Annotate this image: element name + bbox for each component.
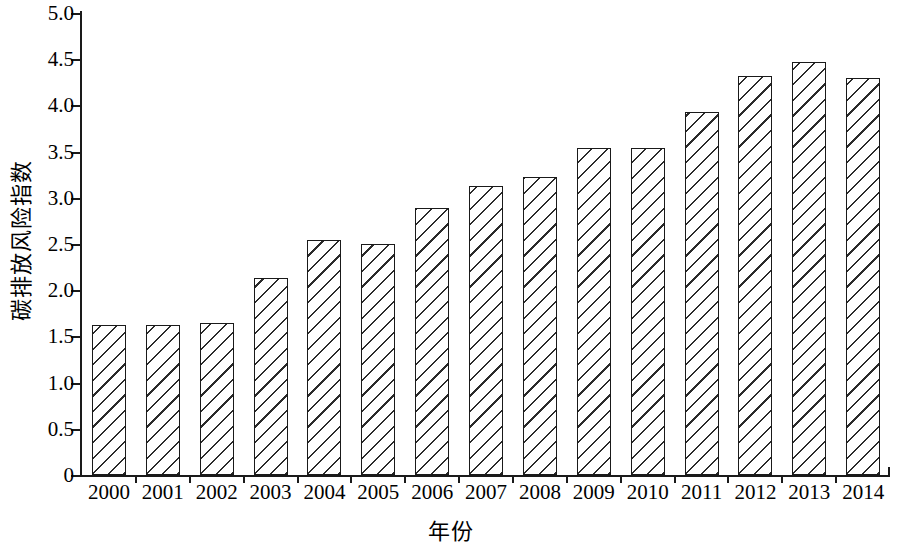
x-axis-end-tick [888,467,890,477]
bar [92,325,126,475]
x-tick-label: 2002 [187,482,247,503]
x-axis-label-text: 年份 [428,519,474,544]
bar [792,62,826,475]
x-tick-label: 2009 [564,482,624,503]
y-tick-label: 3.0 [48,187,74,208]
x-tick-label: 2005 [348,482,408,503]
plot-area: 00.51.01.52.02.53.03.54.04.55.0 [80,13,888,475]
bar [307,240,341,475]
bar [738,76,772,475]
bar [361,244,395,475]
bar [846,78,880,475]
x-axis-line [80,475,890,477]
bar [254,278,288,475]
x-tick-label: 2003 [241,482,301,503]
x-tick-label: 2008 [510,482,570,503]
y-tick-label: 1.5 [48,326,74,347]
x-tick-label: 2011 [672,482,732,503]
x-tick-label: 2004 [294,482,354,503]
y-tick-label: 0 [64,465,75,486]
x-tick-label: 2013 [779,482,839,503]
y-axis-label: 碳排放风险指数 [0,0,36,480]
y-tick-label: 4.0 [48,95,74,116]
bar [523,177,557,475]
y-tick-label: 3.5 [48,141,74,162]
bar [577,148,611,475]
bar [469,186,503,475]
y-tick-label: 5.0 [48,3,74,24]
bar [685,112,719,475]
bar [631,148,665,475]
x-tick-label: 2007 [456,482,516,503]
bar [146,325,180,475]
x-tick-label: 2010 [618,482,678,503]
bar-chart-figure: 碳排放风险指数 00.51.01.52.02.53.03.54.04.55.0 … [0,0,901,550]
x-tick-label: 2001 [133,482,193,503]
y-tick-label: 2.5 [48,234,74,255]
x-tick-label: 2014 [833,482,893,503]
y-axis-label-text: 碳排放风险指数 [2,160,34,321]
x-tick-label: 2012 [725,482,785,503]
x-tick-label: 2006 [402,482,462,503]
bar [415,208,449,475]
y-tick-label: 4.5 [48,49,74,70]
bar [200,323,234,475]
y-tick-label: 1.0 [48,372,74,393]
y-tick-label: 0.5 [48,418,74,439]
y-tick-label: 2.0 [48,280,74,301]
x-axis-label: 年份 [0,513,901,545]
x-tick-label: 2000 [79,482,139,503]
